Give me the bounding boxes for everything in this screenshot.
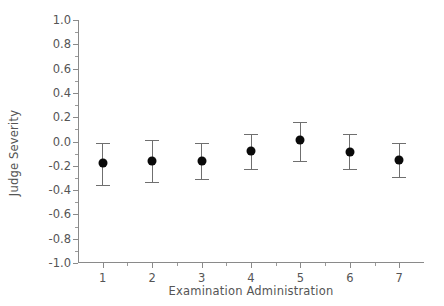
y-tick-label: 0.6 bbox=[53, 62, 71, 76]
errorbar-cap-upper bbox=[392, 143, 406, 144]
data-point-marker bbox=[296, 136, 305, 145]
x-minor-tick-mark bbox=[127, 263, 128, 266]
y-tick-label: -1.0 bbox=[49, 256, 71, 270]
x-tick-mark bbox=[350, 263, 351, 268]
x-minor-tick-mark bbox=[226, 263, 227, 266]
y-tick-label: 0.2 bbox=[53, 110, 71, 124]
x-axis-title: Examination Administration bbox=[78, 284, 424, 298]
y-axis-title: Judge Severity bbox=[0, 0, 28, 306]
x-tick-label: 7 bbox=[396, 271, 403, 285]
y-tick-mark bbox=[73, 93, 78, 94]
y-tick-label: -0.4 bbox=[49, 183, 71, 197]
y-tick-label: 0.4 bbox=[53, 86, 71, 100]
data-point-marker bbox=[345, 148, 354, 157]
y-tick-label: -0.6 bbox=[49, 207, 71, 221]
x-tick-label: 5 bbox=[297, 271, 304, 285]
y-tick-mark bbox=[73, 190, 78, 191]
y-tick-mark bbox=[73, 166, 78, 167]
x-tick-label: 6 bbox=[346, 271, 353, 285]
y-tick-mark bbox=[73, 20, 78, 21]
errorbar-cap-lower bbox=[244, 169, 258, 170]
y-minor-tick-mark bbox=[75, 154, 78, 155]
y-minor-tick-mark bbox=[75, 81, 78, 82]
y-tick-mark bbox=[73, 44, 78, 45]
errorbar-cap-lower bbox=[96, 185, 110, 186]
x-tick-mark bbox=[103, 263, 104, 268]
errorbar-cap-lower bbox=[293, 161, 307, 162]
x-tick-label: 1 bbox=[99, 271, 106, 285]
y-minor-tick-mark bbox=[75, 202, 78, 203]
y-minor-tick-mark bbox=[75, 105, 78, 106]
data-point-marker bbox=[247, 147, 256, 156]
data-point-marker bbox=[148, 156, 157, 165]
data-point-marker bbox=[197, 156, 206, 165]
y-minor-tick-mark bbox=[75, 178, 78, 179]
y-minor-tick-mark bbox=[75, 227, 78, 228]
errorbar-cap-lower bbox=[392, 177, 406, 178]
x-tick-label: 2 bbox=[148, 271, 155, 285]
errorbar-cap-upper bbox=[293, 122, 307, 123]
y-tick-mark bbox=[73, 69, 78, 70]
errorbar-cap-upper bbox=[96, 143, 110, 144]
y-minor-tick-mark bbox=[75, 251, 78, 252]
y-tick-mark bbox=[73, 239, 78, 240]
x-tick-mark bbox=[399, 263, 400, 268]
y-tick-mark bbox=[73, 263, 78, 264]
plot-area: 1.00.80.60.40.20.0-0.2-0.4-0.6-0.8-1.0 1… bbox=[78, 20, 424, 263]
x-minor-tick-mark bbox=[375, 263, 376, 266]
errorbar-cap-lower bbox=[195, 179, 209, 180]
y-tick-label: -0.8 bbox=[49, 232, 71, 246]
errorbar-cap-upper bbox=[343, 134, 357, 135]
x-tick-label: 3 bbox=[198, 271, 205, 285]
x-tick-mark bbox=[152, 263, 153, 268]
y-tick-mark bbox=[73, 142, 78, 143]
y-minor-tick-mark bbox=[75, 56, 78, 57]
errorbar-cap-upper bbox=[145, 140, 159, 141]
data-point-marker bbox=[98, 159, 107, 168]
y-minor-tick-mark bbox=[75, 129, 78, 130]
x-tick-label: 4 bbox=[247, 271, 254, 285]
y-tick-label: 1.0 bbox=[53, 13, 71, 27]
chart-figure: Judge Severity Examination Administratio… bbox=[0, 0, 444, 306]
y-tick-mark bbox=[73, 214, 78, 215]
data-point-marker bbox=[395, 155, 404, 164]
errorbar-cap-upper bbox=[195, 143, 209, 144]
y-tick-mark bbox=[73, 117, 78, 118]
x-minor-tick-mark bbox=[276, 263, 277, 266]
errorbar-cap-lower bbox=[145, 182, 159, 183]
y-minor-tick-mark bbox=[75, 32, 78, 33]
x-tick-mark bbox=[251, 263, 252, 268]
y-tick-label: -0.2 bbox=[49, 159, 71, 173]
y-tick-label: 0.0 bbox=[53, 135, 71, 149]
x-tick-mark bbox=[202, 263, 203, 268]
x-minor-tick-mark bbox=[325, 263, 326, 266]
x-tick-mark bbox=[300, 263, 301, 268]
errorbar-cap-upper bbox=[244, 134, 258, 135]
y-tick-label: 0.8 bbox=[53, 37, 71, 51]
y-axis-spine bbox=[78, 20, 79, 263]
x-minor-tick-mark bbox=[177, 263, 178, 266]
errorbar-cap-lower bbox=[343, 169, 357, 170]
